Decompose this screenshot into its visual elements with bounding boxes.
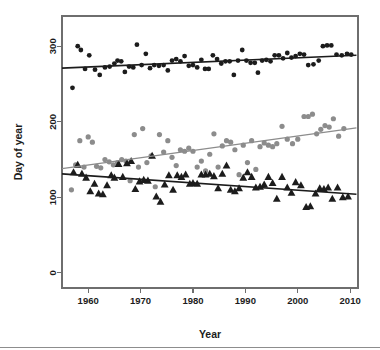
data-point — [87, 53, 92, 58]
y-tick-label: 0 — [48, 270, 59, 275]
data-point — [324, 183, 332, 190]
data-point — [218, 170, 226, 177]
data-point — [248, 60, 253, 65]
x-tick-label: 2010 — [340, 295, 361, 306]
data-point — [240, 48, 245, 53]
data-point — [70, 85, 75, 90]
data-point — [269, 179, 277, 186]
data-point — [199, 158, 204, 163]
data-point — [195, 165, 200, 170]
x-axis-title: Year — [199, 328, 221, 340]
data-point — [152, 192, 160, 199]
x-tick-label: 2000 — [287, 295, 308, 306]
data-point — [191, 63, 196, 68]
data-point — [334, 183, 342, 190]
data-point — [228, 140, 233, 145]
data-point — [75, 44, 80, 49]
trend-line-1 — [62, 128, 356, 169]
data-point — [245, 160, 250, 165]
series-points-1 — [69, 112, 347, 193]
data-point — [132, 132, 137, 137]
data-point — [272, 53, 277, 58]
data-point — [274, 141, 279, 146]
data-point — [276, 53, 281, 58]
data-point — [236, 172, 241, 177]
data-point — [328, 195, 336, 202]
data-point — [182, 171, 190, 178]
data-point — [329, 43, 334, 48]
data-point — [148, 66, 153, 71]
data-point — [310, 112, 315, 117]
data-point — [231, 73, 236, 78]
data-point — [295, 137, 300, 142]
data-point — [320, 44, 325, 49]
data-point — [290, 141, 295, 146]
data-point — [292, 178, 300, 185]
data-point — [143, 51, 148, 56]
data-point — [153, 184, 158, 189]
data-point — [103, 181, 111, 188]
data-point — [316, 58, 321, 63]
data-point — [327, 124, 332, 129]
x-tick-label: 1970 — [130, 295, 151, 306]
data-point — [195, 65, 200, 70]
data-point — [98, 165, 103, 170]
data-point — [186, 63, 191, 68]
data-point — [244, 168, 252, 175]
data-point — [331, 116, 336, 121]
data-point — [165, 171, 173, 178]
data-point — [140, 126, 145, 131]
data-point — [325, 43, 330, 48]
series-points-2 — [70, 152, 352, 210]
data-point — [206, 66, 211, 71]
data-point — [207, 152, 212, 157]
x-tick-label: 1980 — [182, 295, 203, 306]
scatter-plot: 0100200300 196019701980199020002010 Year… — [0, 0, 380, 350]
data-point — [257, 144, 262, 149]
y-axis-title: Day of year — [12, 124, 24, 181]
data-point — [311, 62, 316, 67]
data-point — [336, 134, 341, 139]
data-point — [169, 186, 177, 193]
y-axis-ticks: 0100200300 — [48, 38, 63, 275]
data-point — [170, 58, 175, 63]
data-point — [93, 67, 98, 72]
data-point — [273, 195, 281, 202]
data-point — [252, 60, 257, 65]
data-point — [211, 131, 216, 136]
data-point — [216, 165, 221, 170]
data-point — [265, 173, 273, 180]
x-tick-label: 1990 — [235, 295, 256, 306]
data-point — [232, 147, 237, 152]
data-point — [306, 63, 311, 68]
figure-container: 0100200300 196019701980199020002010 Year… — [0, 0, 380, 350]
y-tick-label: 200 — [48, 114, 59, 130]
data-point — [91, 180, 99, 187]
data-point — [253, 167, 258, 172]
data-point — [135, 42, 140, 47]
data-point — [78, 48, 83, 53]
data-point — [186, 146, 191, 151]
data-point — [86, 187, 94, 194]
data-point — [318, 127, 323, 132]
data-point — [297, 51, 302, 56]
y-tick-label: 300 — [48, 38, 59, 54]
data-point — [256, 70, 261, 75]
data-point — [278, 173, 286, 180]
data-point — [174, 163, 179, 168]
data-point — [165, 68, 170, 73]
data-point — [169, 155, 174, 160]
y-tick-label: 100 — [48, 189, 59, 205]
x-tick-label: 1960 — [78, 295, 99, 306]
data-point — [182, 54, 187, 59]
data-point — [270, 144, 275, 149]
data-point — [136, 165, 141, 170]
data-point — [86, 134, 91, 139]
data-point — [165, 138, 170, 143]
data-point — [285, 51, 290, 56]
data-point — [119, 59, 124, 64]
data-point — [77, 138, 82, 143]
data-point — [122, 70, 127, 75]
data-point — [144, 160, 149, 165]
x-axis-ticks: 196019701980199020002010 — [78, 288, 361, 306]
